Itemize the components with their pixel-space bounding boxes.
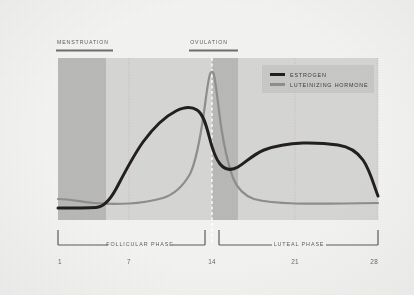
hormone-cycle-chart: MENSTRUATION OVULATION ESTROGEN [0,0,414,295]
luteal-phase-label: LUTEAL PHASE [274,241,325,247]
ovulation-label: OVULATION [190,39,228,45]
x-tick-28: 28 [370,258,378,265]
follicular-phase-label: FOLLICULAR PHASE [106,241,173,247]
legend-estrogen-label: ESTROGEN [290,72,327,78]
chart-page: MENSTRUATION OVULATION ESTROGEN [0,0,414,295]
x-tick-1: 1 [58,258,62,265]
x-tick-14: 14 [208,258,216,265]
menstruation-band [58,58,106,220]
menstruation-label: MENSTRUATION [57,39,109,45]
legend: ESTROGEN LUTEINIZING HORMONE [262,65,374,93]
x-tick-7: 7 [127,258,131,265]
x-tick-21: 21 [291,258,299,265]
chart-svg: MENSTRUATION OVULATION ESTROGEN [0,0,414,295]
legend-background [262,65,374,93]
legend-lh-label: LUTEINIZING HORMONE [290,82,368,88]
